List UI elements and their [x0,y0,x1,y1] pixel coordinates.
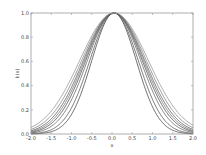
x-tick-label: 1.5 [169,135,177,141]
axes-frame [31,13,193,134]
x-axis-label: x [111,142,114,148]
x-tick-label: 2.0 [189,135,197,141]
kernel-curve [31,13,193,131]
y-tick-label: 0.8 [21,34,29,40]
y-tick-label: 0.2 [21,107,29,113]
kernel-curves [31,13,193,134]
kernel-curve [31,13,193,134]
y-tick-label: 0.4 [21,82,29,88]
kernel-line-chart: -2.0-1.5-1.0-0.50.00.51.01.52.0 0.00.20.… [0,0,206,155]
x-tick-label: -0.5 [87,135,97,141]
y-tick-label: 1.0 [21,10,29,16]
x-tick-label: 0.5 [128,135,136,141]
y-axis-label: k(x) [14,69,20,79]
y-tick-label: 0.6 [21,58,29,64]
x-tick-label: -1.5 [46,135,56,141]
x-tick-label: -1.0 [67,135,77,141]
x-tick-label: 0.0 [108,135,116,141]
x-tick-label: 1.0 [149,135,157,141]
y-tick-label: 0.0 [21,131,29,137]
